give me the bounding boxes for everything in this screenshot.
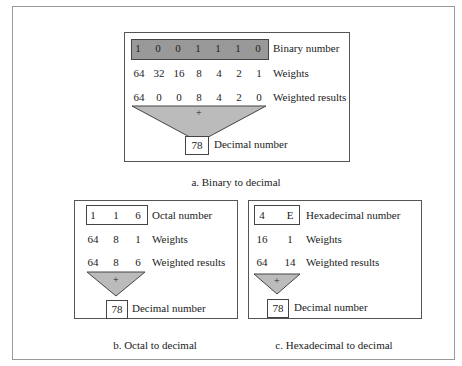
label-weighted-results: Weighted results [306,256,379,268]
result: 0 [249,91,269,103]
result: 0 [169,91,189,103]
result: 4 [209,91,229,103]
label-octal-number: Octal number [152,209,212,221]
result: 6 [128,256,148,268]
label-weighted-results: Weighted results [273,91,346,103]
result: 8 [106,256,126,268]
digit: 1 [83,209,103,221]
digit: E [280,209,300,221]
label-weights: Weights [273,67,309,79]
label-decimal-number: Decimal number [132,302,206,314]
decimal-result-box: 78 [267,299,289,318]
digit: 1 [128,42,148,54]
label-hex-number: Hexadecimal number [306,209,400,221]
weight: 32 [149,67,169,79]
weight: 8 [189,67,209,79]
result: 2 [229,91,249,103]
digit: 1 [106,209,126,221]
digit: 1 [208,42,228,54]
label-decimal-number: Decimal number [214,138,288,150]
weight: 64 [83,233,103,245]
digit: 0 [248,42,268,54]
plus-sign: + [113,274,119,285]
caption-c: c. Hexadecimal to decimal [248,339,420,351]
digit: 6 [128,209,148,221]
caption-b: b. Octal to decimal [74,339,236,351]
weight: 1 [280,233,300,245]
plus-sign: + [196,107,202,118]
weight: 4 [209,67,229,79]
digit: 0 [168,42,188,54]
weight: 16 [252,233,272,245]
label-weighted-results: Weighted results [152,256,225,268]
label-weights: Weights [306,233,342,245]
decimal-result-box: 78 [106,300,128,319]
decimal-result-box: 78 [185,136,209,155]
label-decimal-number: Decimal number [294,301,368,313]
digit: 1 [188,42,208,54]
weight: 16 [169,67,189,79]
label-binary-number: Binary number [273,42,339,54]
weight: 1 [249,67,269,79]
digit: 4 [252,209,272,221]
result: 0 [149,91,169,103]
digit: 0 [148,42,168,54]
caption-a: a. Binary to decimal [124,176,348,188]
result: 14 [280,256,300,268]
weight: 1 [128,233,148,245]
weight: 8 [106,233,126,245]
weight: 64 [129,67,149,79]
result: 64 [83,256,103,268]
result: 8 [189,91,209,103]
plus-sign: + [274,275,280,286]
result: 64 [252,256,272,268]
label-weights: Weights [152,233,188,245]
digit: 1 [228,42,248,54]
result: 64 [129,91,149,103]
weight: 2 [229,67,249,79]
